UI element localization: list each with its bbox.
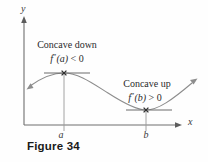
figure-svg-canvas: y x a b Concave down f″(a) < 0 Concave u… (0, 0, 208, 162)
concave-down-formula-arg: (a) (56, 53, 68, 65)
concave-up-formula: f″(b) > 0 (128, 92, 161, 104)
concave-down-formula-relation: < 0 (68, 53, 84, 64)
tick-label-b: b (144, 129, 149, 140)
y-axis-arrowhead (21, 16, 27, 23)
figure-caption: Figure 34 (27, 140, 80, 152)
concave-up-title: Concave up (123, 78, 171, 89)
annotation-concave-up: Concave up f″(b) > 0 (123, 78, 171, 104)
annotation-concave-down: Concave down f″(a) < 0 (37, 39, 97, 65)
concave-down-title: Concave down (37, 39, 97, 50)
concave-up-formula-arg: (b) (134, 92, 146, 104)
function-curve-group (27, 73, 198, 110)
concave-up-formula-relation: > 0 (146, 92, 162, 103)
x-axis-label: x (187, 116, 193, 127)
figure-34-container: y x a b Concave down f″(a) < 0 Concave u… (0, 0, 208, 162)
x-axis-arrowhead (175, 122, 182, 127)
axes-group (21, 16, 182, 128)
concave-down-formula: f″(a) < 0 (50, 53, 83, 65)
tick-label-a: a (59, 129, 64, 140)
y-axis-label: y (20, 3, 26, 14)
